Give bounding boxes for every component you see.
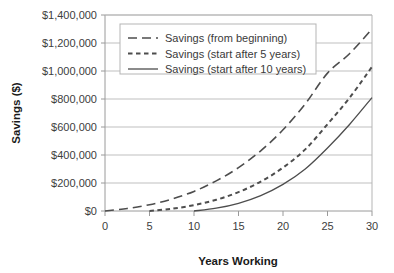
x-tick-label-20: 20 <box>277 220 289 232</box>
legend-label-0: Savings (from beginning) <box>165 32 287 44</box>
y-tick-label-800000: $800,000 <box>51 93 97 105</box>
chart-legend: Savings (from beginning)Savings (start a… <box>120 24 316 75</box>
x-tick-label-0: 0 <box>102 220 108 232</box>
x-tick-label-30: 30 <box>366 220 378 232</box>
legend-label-1: Savings (start after 5 years) <box>165 48 300 60</box>
savings-line-chart: $0$200,000$400,000$600,000$800,000$1,000… <box>0 0 394 273</box>
y-tick-label-1200000: $1,200,000 <box>42 37 97 49</box>
y-tick-label-1000000: $1,000,000 <box>42 65 97 77</box>
y-tick-label-600000: $600,000 <box>51 121 97 133</box>
y-tick-label-1400000: $1,400,000 <box>42 9 97 21</box>
y-axis-title: Savings ($) <box>10 82 22 144</box>
y-tick-label-200000: $200,000 <box>51 177 97 189</box>
chart-container: $0$200,000$400,000$600,000$800,000$1,000… <box>0 0 394 273</box>
x-tick-label-10: 10 <box>188 220 200 232</box>
x-tick-label-25: 25 <box>321 220 333 232</box>
y-tick-label-400000: $400,000 <box>51 149 97 161</box>
legend-label-2: Savings (start after 10 years) <box>165 63 306 75</box>
y-tick-label-0: $0 <box>85 205 97 217</box>
x-tick-label-5: 5 <box>146 220 152 232</box>
x-tick-label-15: 15 <box>232 220 244 232</box>
x-axis-title: Years Working <box>198 255 278 267</box>
